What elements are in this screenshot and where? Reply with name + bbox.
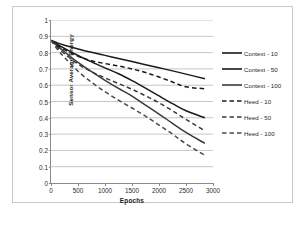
legend-item-label: Context - 10 [242, 50, 278, 57]
y-tick-mark [49, 134, 52, 135]
plot-svg [51, 20, 213, 183]
y-tick-mark [49, 150, 52, 151]
plot-area: Sensor Average Energy 00.10.20.30.40.50.… [50, 20, 212, 183]
y-tick-label: 0.4 [26, 114, 48, 121]
legend-item-label: Heed - 100 [242, 130, 275, 137]
x-tick-label: 1000 [98, 187, 112, 194]
legend-line-icon [222, 97, 242, 105]
x-tick-label: 1500 [125, 187, 139, 194]
y-tick-label: 0.2 [26, 147, 48, 154]
series-line [51, 40, 205, 143]
chart-figure: Sensor Average Energy 00.10.20.30.40.50.… [0, 0, 306, 234]
legend-line-icon [222, 129, 242, 137]
y-tick-mark [49, 69, 52, 70]
legend-item-label: Context - 50 [242, 66, 278, 73]
series-curves [51, 40, 205, 155]
legend-line-icon [222, 81, 242, 89]
y-tick-label: 0.9 [26, 33, 48, 40]
y-tick-mark [49, 118, 52, 119]
legend-item[interactable]: Context - 50 [222, 61, 292, 77]
legend-item[interactable]: Heed - 50 [222, 109, 292, 125]
y-tick-mark [49, 102, 52, 103]
series-line [51, 40, 205, 117]
y-tick-label: 0.7 [26, 65, 48, 72]
y-tick-label: 0.1 [26, 163, 48, 170]
y-tick-mark [49, 85, 52, 86]
legend-item-label: Heed - 10 [242, 98, 271, 105]
legend-line-icon [222, 65, 242, 73]
y-tick-label: 0 [26, 180, 48, 187]
y-tick-label: 0.6 [26, 82, 48, 89]
x-axis-label: Epochs [51, 197, 213, 204]
legend-line-icon [222, 49, 242, 57]
x-tick-label: 500 [73, 187, 84, 194]
y-tick-mark [49, 20, 52, 21]
series-line [51, 40, 205, 155]
y-tick-label: 0.8 [26, 49, 48, 56]
legend-item[interactable]: Heed - 10 [222, 93, 292, 109]
x-tick-label: 2500 [179, 187, 193, 194]
gridlines [51, 20, 213, 183]
x-tick-label: 2000 [152, 187, 166, 194]
y-tick-label: 1 [26, 17, 48, 24]
legend-item-label: Heed - 50 [242, 114, 271, 121]
y-tick-mark [49, 36, 52, 37]
x-axis-line [51, 183, 213, 184]
legend-item[interactable]: Context - 100 [222, 77, 292, 93]
x-tick-label: 3000 [206, 187, 220, 194]
legend-item[interactable]: Context - 10 [222, 45, 292, 61]
y-tick-mark [49, 167, 52, 168]
legend-item-label: Context - 100 [242, 82, 281, 89]
y-tick-label: 0.5 [26, 98, 48, 105]
y-tick-label: 0.3 [26, 131, 48, 138]
x-tick-label: 0 [49, 187, 53, 194]
chart-legend: Context - 10Context - 50Context - 100Hee… [222, 45, 292, 141]
y-tick-mark [49, 53, 52, 54]
legend-item[interactable]: Heed - 100 [222, 125, 292, 141]
legend-line-icon [222, 113, 242, 121]
x-tick-mark [213, 183, 214, 186]
